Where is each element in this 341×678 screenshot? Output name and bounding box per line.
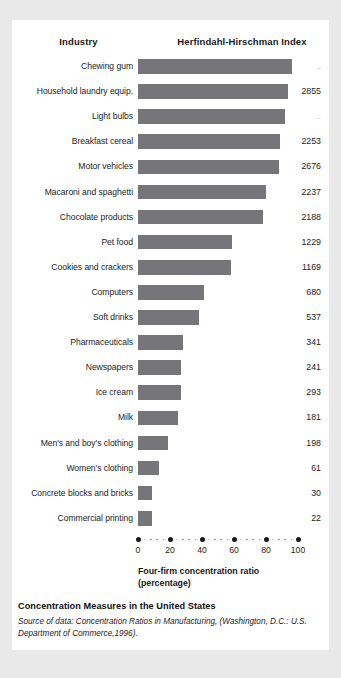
bar [138,59,292,74]
row-label: Pet food [12,230,133,255]
chart-page: Industry Herfindahl-Hirschman Index Chew… [0,0,341,678]
bar [138,285,204,300]
bar [138,235,232,250]
axis-minor-dot [220,539,222,541]
row-label: Light bulbs [12,104,133,129]
bar-track [138,481,298,506]
bar-track [138,129,298,154]
bar-track [138,380,298,405]
axis-minor-dot [259,539,261,541]
bar-track [138,355,298,380]
bar [138,310,199,325]
bar-track [138,104,298,129]
row-hhi-value: 2188 [284,205,329,230]
bar [138,486,152,501]
bar [138,84,288,99]
bar-track [138,180,298,205]
chart-row: Pharmaceuticals341 [12,330,329,355]
row-hhi-value: 241 [284,355,329,380]
axis-minor-dot [144,539,146,541]
row-hhi-value: 341 [284,330,329,355]
axis-minor-dot [291,539,293,541]
chart-row: Household laundry equip.2855 [12,79,329,104]
axis-tick-label: 100 [283,545,313,555]
row-label: Ice cream [12,380,133,405]
caption-source: Source of data: Concentration Ratios in … [18,616,323,639]
bar [138,360,181,375]
row-label: Women's clothing [12,456,133,481]
chart-row: Motor vehicles2676 [12,154,329,179]
row-label: Men's and boy's clothing [12,431,133,456]
chart-row: Computers680 [12,280,329,305]
x-axis-title-line2: (percentage) [138,578,328,590]
caption-title: Concentration Measures in the United Sta… [18,601,323,611]
bar [138,160,279,175]
bar [138,109,285,124]
axis-tick-label: 40 [187,545,217,555]
row-hhi-value: 680 [284,280,329,305]
axis-tick-dot [264,537,269,542]
row-label: Pharmaceuticals [12,330,133,355]
row-hhi-value: 1229 [284,230,329,255]
bar-track [138,205,298,230]
axis-tick-dot [232,537,237,542]
row-hhi-value: .. [284,54,329,79]
bar-track [138,330,298,355]
column-header-industry: Industry [12,36,145,47]
axis-tick-dot [296,537,301,542]
caption-block: Concentration Measures in the United Sta… [18,601,323,639]
row-hhi-value: 22 [284,506,329,531]
axis-tick-dot [200,537,205,542]
row-hhi-value: .. [284,104,329,129]
x-axis-title: Four-firm concentration ratio (percentag… [138,566,328,589]
axis-tick-label: 60 [219,545,249,555]
bar-track [138,79,298,104]
axis-minor-dot [208,539,210,541]
row-hhi-value: 293 [284,380,329,405]
chart-row: Pet food1229 [12,230,329,255]
bar [138,260,231,275]
chart-row: Macaroni and spaghetti2237 [12,180,329,205]
row-label: Commercial printing [12,506,133,531]
axis-minor-dot [214,539,216,541]
bar-track [138,506,298,531]
bar [138,335,183,350]
chart-row: Milk181 [12,405,329,430]
row-hhi-value: 181 [284,405,329,430]
bar-track [138,280,298,305]
row-label: Cookies and crackers [12,255,133,280]
bar-chart-plot: Chewing gum..Household laundry equip.285… [12,54,329,534]
chart-row: Women's clothing61 [12,456,329,481]
row-hhi-value: 61 [284,456,329,481]
row-label: Household laundry equip. [12,79,133,104]
row-label: Breakfast cereal [12,129,133,154]
bar-track [138,456,298,481]
axis-minor-dot [252,539,254,541]
bar [138,411,178,426]
axis-minor-dot [182,539,184,541]
row-hhi-value: 2237 [284,180,329,205]
row-hhi-value: 537 [284,305,329,330]
axis-tick-label: 0 [123,545,153,555]
axis-minor-dot [284,539,286,541]
bar-track [138,431,298,456]
chart-row: Men's and boy's clothing198 [12,431,329,456]
row-label: Computers [12,280,133,305]
row-hhi-value: 2676 [284,154,329,179]
axis-tick-label: 80 [251,545,281,555]
axis-minor-dot [195,539,197,541]
x-axis-title-line1: Four-firm concentration ratio [138,566,328,578]
chart-row: Cookies and crackers1169 [12,255,329,280]
bar-track [138,154,298,179]
chart-row: Breakfast cereal2253 [12,129,329,154]
chart-row: Newspapers241 [12,355,329,380]
axis-minor-dot [240,539,242,541]
row-hhi-value: 2253 [284,129,329,154]
axis-minor-dot [163,539,165,541]
row-label: Soft drinks [12,305,133,330]
chart-row: Commercial printing22 [12,506,329,531]
chart-row: Chocolate products2188 [12,205,329,230]
row-label: Chocolate products [12,205,133,230]
bar [138,185,266,200]
bar-track [138,305,298,330]
